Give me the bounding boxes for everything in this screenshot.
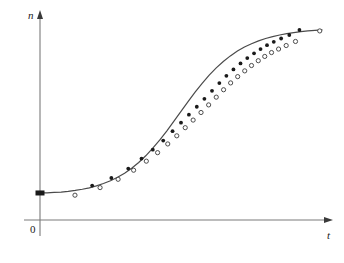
chart-figure: n t 0 bbox=[0, 0, 344, 263]
filled-circle-marker bbox=[210, 89, 214, 93]
open-circle-marker bbox=[243, 69, 247, 73]
open-circle-marker bbox=[98, 186, 102, 190]
open-circle-marker bbox=[284, 43, 288, 47]
filled-circle-marker bbox=[225, 74, 229, 78]
filled-circle-marker bbox=[217, 81, 221, 85]
open-circle-marker bbox=[191, 118, 195, 122]
filled-circle-marker bbox=[298, 28, 302, 32]
open-circle-marker bbox=[236, 75, 240, 79]
filled-circle-marker bbox=[265, 43, 269, 47]
open-circle-marker bbox=[269, 50, 273, 54]
open-circle-marker bbox=[132, 168, 136, 172]
filled-circle-marker bbox=[195, 105, 199, 109]
filled-circle-marker bbox=[161, 139, 165, 143]
filled-circle-marker bbox=[232, 68, 236, 72]
filled-circle-marker bbox=[171, 129, 175, 133]
filled-circle-marker bbox=[287, 33, 291, 37]
filled-circle-marker bbox=[151, 148, 155, 152]
open-circle-marker bbox=[175, 134, 179, 138]
plot-canvas bbox=[0, 0, 344, 263]
filled-circle-marker bbox=[272, 40, 276, 44]
origin-label: 0 bbox=[30, 224, 36, 235]
filled-circle-marker bbox=[279, 37, 283, 41]
filled-circle-marker bbox=[187, 113, 191, 117]
filled-circle-marker bbox=[126, 167, 130, 171]
x-axis-label: t bbox=[327, 230, 330, 241]
filled-circle-marker bbox=[245, 56, 249, 60]
open-circle-marker bbox=[221, 88, 225, 92]
open-circle-marker bbox=[207, 103, 211, 107]
open-circle-marker bbox=[293, 39, 297, 43]
x-axis-arrowhead bbox=[324, 217, 333, 223]
filled-circle-marker bbox=[239, 62, 243, 66]
y-axis-label: n bbox=[28, 10, 34, 21]
open-circle-marker bbox=[166, 142, 170, 146]
open-circle-marker bbox=[199, 110, 203, 114]
y-axis-arrowhead bbox=[37, 10, 43, 19]
open-circle-marker bbox=[256, 59, 260, 63]
filled-circle-marker bbox=[252, 51, 256, 55]
fitted-curve bbox=[40, 30, 322, 193]
open-circle-marker bbox=[183, 126, 187, 130]
open-circle-marker bbox=[155, 151, 159, 155]
open-circle-marker bbox=[318, 29, 322, 33]
filled-circle-marker bbox=[140, 157, 144, 161]
data-group bbox=[36, 28, 323, 197]
filled-circle-marker bbox=[109, 176, 113, 180]
filled-circle-marker bbox=[203, 97, 207, 101]
open-circle-marker bbox=[73, 193, 77, 197]
open-circle-marker bbox=[249, 63, 253, 67]
open-circle-marker bbox=[263, 54, 267, 58]
open-circle-markers bbox=[73, 29, 322, 197]
filled-circle-marker bbox=[259, 47, 263, 51]
filled-circle-marker bbox=[90, 184, 94, 188]
origin-square-marker bbox=[36, 190, 45, 195]
open-circle-marker bbox=[144, 159, 148, 163]
open-circle-marker bbox=[116, 177, 120, 181]
open-circle-marker bbox=[276, 47, 280, 51]
open-circle-marker bbox=[214, 95, 218, 99]
filled-circle-marker bbox=[179, 121, 183, 125]
open-circle-marker bbox=[229, 81, 233, 85]
